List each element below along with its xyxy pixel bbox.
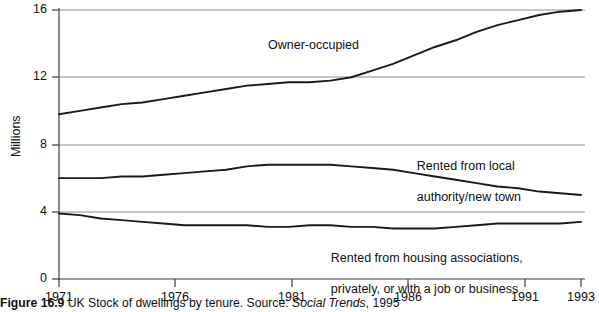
- series-annotation-local-authority-line1: Rented from local: [417, 159, 515, 173]
- figure-caption-title: UK Stock of dwellings by tenure.: [68, 296, 243, 310]
- figure-caption-number: Figure 16.9: [0, 296, 64, 310]
- series-annotation-owner-occupied: Owner-occupied: [268, 38, 359, 53]
- figure-caption-source-year: , 1995: [366, 296, 400, 310]
- series-annotation-other-tenures-line2: privately, or with a job or business: [331, 282, 518, 296]
- figure-caption: Figure 16.9 UK Stock of dwellings by ten…: [0, 296, 592, 310]
- y-tick-label-4: 4: [22, 205, 47, 218]
- series-line-owner-occupied: [59, 10, 581, 114]
- chart-plot-area: Millions 16 12 8 4 0 1971 1976 1981 1986…: [0, 0, 592, 292]
- series-annotation-other-tenures-line1: Rented from housing associations,: [331, 251, 523, 265]
- y-tick-label-12: 12: [22, 70, 47, 83]
- y-tick-label-8: 8: [22, 138, 47, 151]
- y-tick-label-0: 0: [22, 272, 47, 285]
- y-tick-label-16: 16: [22, 3, 47, 16]
- series-annotation-local-authority-line2: authority/new town: [417, 190, 521, 204]
- y-axis-title: Millions: [10, 96, 23, 176]
- y-axis-ticks: [52, 10, 59, 279]
- figure-caption-source-label: Source:: [247, 296, 289, 310]
- figure-caption-source-name: Social Trends: [292, 296, 366, 310]
- series-annotation-local-authority: Rented from local authority/new town: [396, 144, 521, 220]
